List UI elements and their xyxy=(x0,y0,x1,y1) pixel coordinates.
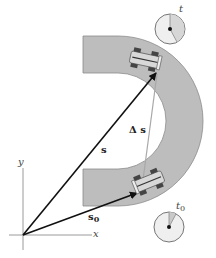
label-clock-t0-sub: 0 xyxy=(180,204,185,213)
label-delta-s: Δ s xyxy=(129,125,146,135)
label-x-axis: x xyxy=(93,229,99,239)
label-clock-t0: t0 xyxy=(176,201,185,211)
label-s0-sub: 0 xyxy=(94,214,100,224)
clock-icon xyxy=(155,14,185,44)
coordinate-axes xyxy=(9,168,92,250)
label-s0-main: s xyxy=(88,211,94,222)
label-clock-t: t xyxy=(179,4,183,14)
clock-icon xyxy=(154,212,184,242)
label-y-axis: y xyxy=(18,157,24,167)
label-s0: s0 xyxy=(88,212,99,222)
label-s: s xyxy=(101,145,107,155)
kinematics-diagram xyxy=(0,0,216,258)
